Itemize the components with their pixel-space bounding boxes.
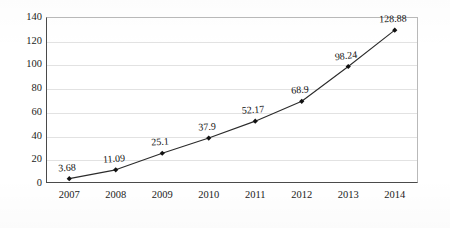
y-axis-tick-label: 40 [2,130,42,141]
data-point-marker [67,176,72,181]
x-axis-tick-label: 2010 [198,190,219,201]
y-axis-tick-label: 60 [2,107,42,118]
data-point-label: 52.17 [242,104,265,116]
data-series-line [46,17,418,183]
x-axis-tick-label: 2007 [59,190,80,201]
data-point-label: 37.9 [198,122,216,133]
y-axis-tick-label: 140 [2,12,42,23]
data-point-marker [113,167,118,172]
y-axis-tick-labels: 020406080100120140 [0,17,42,183]
y-axis-tick-label: 120 [2,35,42,46]
data-point-marker [253,119,258,124]
x-axis-tick-label: 2009 [152,190,173,201]
data-point-label: 25.1 [151,137,169,148]
data-point-label: 68.9 [291,85,309,96]
x-axis-tick-label: 2012 [291,190,312,201]
x-axis-tick-labels: 20072008200920102011201220132014 [46,190,418,210]
data-point-label: 98.24 [335,49,358,61]
x-axis-tick-label: 2014 [384,190,405,201]
x-axis-tick-label: 2013 [338,190,359,201]
x-axis-tick-label: 2008 [105,190,126,201]
y-axis-tick-label: 20 [2,154,42,165]
data-point-marker [206,135,211,140]
y-axis-tick-label: 80 [2,83,42,94]
data-point-marker [160,151,165,156]
chart-image: 020406080100120140 3.6811.0925.137.952.1… [0,0,450,228]
data-point-label: 11.09 [102,153,125,165]
y-axis-tick-label: 100 [2,59,42,70]
data-point-label: 128.88 [379,14,407,25]
y-axis-tick-label: 0 [2,178,42,189]
x-axis-tick-label: 2011 [245,190,266,201]
data-point-label: 3.68 [58,162,76,173]
